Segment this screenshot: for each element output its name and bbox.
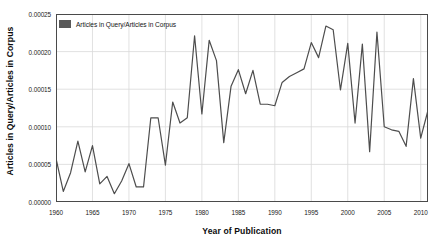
x-axis-tick-labels: 1960196519701975198019851990199520002005… [0, 0, 443, 248]
x-tick-label: 1995 [304, 209, 318, 216]
x-tick-label: 2000 [341, 209, 355, 216]
x-tick-label: 1970 [122, 209, 136, 216]
x-tick-label: 1980 [195, 209, 209, 216]
x-tick-label: 1965 [86, 209, 100, 216]
chart-figure: Articles in Query/Articles in Corpus 0.0… [0, 0, 443, 248]
x-tick-label: 1985 [231, 209, 245, 216]
x-tick-label: 2005 [377, 209, 391, 216]
x-tick-label: 2010 [414, 209, 428, 216]
x-tick-label: 1960 [49, 209, 63, 216]
x-tick-label: 1975 [158, 209, 172, 216]
x-axis-title: Year of Publication [56, 226, 428, 236]
x-tick-label: 1990 [268, 209, 282, 216]
